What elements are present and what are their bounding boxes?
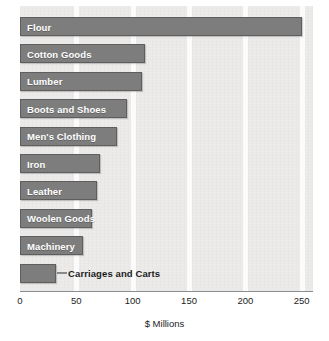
x-tick-label: 200 — [237, 295, 253, 306]
leader-line — [57, 272, 67, 273]
plot-area: FlourCotton GoodsLumberBoots and ShoesMe… — [20, 6, 313, 291]
bar[interactable]: Cotton Goods — [20, 44, 145, 63]
bar-label: Flour — [27, 21, 51, 32]
bar-label: Men's Clothing — [27, 131, 96, 142]
bar-chart: FlourCotton GoodsLumberBoots and ShoesMe… — [0, 0, 329, 341]
x-tick-label: 0 — [17, 295, 22, 306]
bar-label: Leather — [27, 185, 62, 196]
bar-label: Boots and Shoes — [27, 103, 106, 114]
x-axis-line — [20, 291, 313, 292]
bar[interactable] — [20, 264, 56, 283]
x-tick-label: 250 — [294, 295, 310, 306]
bar-label: Woolen Goods — [27, 213, 95, 224]
bar-label-external: Carriages and Carts — [68, 267, 160, 278]
gridline-250 — [300, 6, 305, 291]
bar-label: Machinery — [27, 240, 75, 251]
x-tick-label: 150 — [181, 295, 197, 306]
bar[interactable]: Woolen Goods — [20, 209, 92, 228]
bar[interactable]: Boots and Shoes — [20, 99, 127, 118]
bar[interactable]: Flour — [20, 17, 302, 36]
bar[interactable]: Lumber — [20, 72, 142, 91]
bar[interactable]: Men's Clothing — [20, 127, 117, 146]
bar-label: Cotton Goods — [27, 48, 92, 59]
bar[interactable]: Machinery — [20, 236, 83, 255]
bar-label: Iron — [27, 158, 45, 169]
x-axis-title: $ Millions — [0, 318, 329, 329]
bar[interactable]: Iron — [20, 154, 100, 173]
bar[interactable]: Leather — [20, 181, 97, 200]
x-tick-label: 50 — [71, 295, 82, 306]
x-tick-label: 100 — [125, 295, 141, 306]
bar-label: Lumber — [27, 76, 62, 87]
gridline-150 — [187, 6, 192, 291]
gridline-200 — [243, 6, 248, 291]
